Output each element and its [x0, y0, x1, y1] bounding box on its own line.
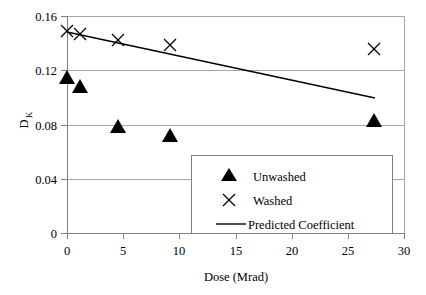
- y-tick-label-0.12: 0.12: [35, 64, 57, 78]
- x-tick-label-10: 10: [173, 244, 186, 258]
- y-axis-tick-labels: 0.16 0.12 0.08 0.04 0: [35, 10, 58, 241]
- data-point-unwashed-1: [72, 79, 88, 93]
- x-tick-label-15: 15: [230, 244, 243, 258]
- y-axis-title: D K: [17, 111, 34, 129]
- y-tick-label-0: 0: [51, 227, 57, 241]
- data-point-unwashed-4: [366, 113, 382, 127]
- chart-figure: 0.16 0.12 0.08 0.04 0 0 5 10 15 20 25 30…: [0, 0, 426, 295]
- chart-legend: Unwashed Washed Predicted Coefficient: [191, 155, 392, 233]
- y-tick-label-0.16: 0.16: [35, 10, 57, 24]
- legend-label-predicted-coefficient: Predicted Coefficient: [248, 218, 355, 232]
- x-tick-label-20: 20: [286, 244, 299, 258]
- legend-label-unwashed: Unwashed: [253, 170, 307, 184]
- x-axis-tick-labels: 0 5 10 15 20 25 30: [64, 244, 410, 258]
- x-tick-label-25: 25: [342, 244, 355, 258]
- y-axis-title-base: D: [17, 119, 31, 128]
- legend-label-washed: Washed: [253, 194, 293, 208]
- y-tick-label-0.04: 0.04: [35, 173, 58, 187]
- data-point-unwashed-2: [110, 119, 126, 133]
- x-axis-title: Dose (Mrad): [204, 270, 268, 284]
- data-point-washed-4: [368, 43, 380, 55]
- data-point-washed-3: [164, 39, 176, 51]
- y-tick-label-0.08: 0.08: [35, 119, 57, 133]
- series-unwashed-markers: [59, 70, 382, 142]
- data-point-unwashed-3: [162, 128, 178, 142]
- x-tick-label-0: 0: [64, 244, 70, 258]
- x-axis-ticks: [67, 233, 404, 239]
- data-point-unwashed-0: [59, 70, 75, 84]
- series-washed-markers: [61, 25, 380, 55]
- x-tick-label-30: 30: [398, 244, 411, 258]
- y-axis-ticks: [61, 16, 67, 233]
- data-point-washed-2: [112, 34, 124, 46]
- scatter-chart: 0.16 0.12 0.08 0.04 0 0 5 10 15 20 25 30…: [0, 0, 426, 295]
- y-axis-title-subscript: K: [24, 111, 34, 118]
- predicted-coefficient-line: [67, 32, 375, 98]
- x-tick-label-5: 5: [120, 244, 126, 258]
